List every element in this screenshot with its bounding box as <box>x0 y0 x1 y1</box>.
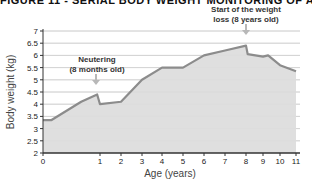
y-tick-label: 5.5 <box>27 64 39 73</box>
y-axis-label: Body weight (kg) <box>5 55 16 129</box>
x-tick-label: 2 <box>119 157 124 166</box>
y-tick-label: 7 <box>34 27 39 36</box>
arrow-down-icon <box>242 30 250 35</box>
x-tick-label: 4 <box>160 157 165 166</box>
x-tick-label: 5 <box>181 157 186 166</box>
arrow-down-icon <box>92 80 100 85</box>
x-axis-label: Age (years) <box>144 168 196 179</box>
y-tick-label: 4.5 <box>27 88 39 97</box>
y-tick-label: 2 <box>34 149 39 158</box>
y-tick-label: 5 <box>34 76 39 85</box>
x-tick-label: 1 <box>98 157 103 166</box>
x-tick-label: 9 <box>261 157 266 166</box>
annotation-label: Neutering <box>78 55 115 64</box>
annotation-label: loss (8 years old) <box>213 15 279 24</box>
y-tick-label: 3.5 <box>27 112 39 121</box>
x-tick-label: 3 <box>140 157 145 166</box>
x-tick-label: 8 <box>244 157 249 166</box>
y-tick-label: 4 <box>34 100 39 109</box>
annotation-label: (8 months old) <box>69 65 124 74</box>
y-tick-label: 3 <box>34 125 39 134</box>
y-tick-label: 6 <box>34 51 39 60</box>
x-tick-label: 10 <box>276 157 285 166</box>
body-weight-chart: 22.533.544.555.566.5701234567891011Age (… <box>0 0 312 184</box>
x-tick-label: 0 <box>41 157 46 166</box>
x-tick-label: 11 <box>292 157 301 166</box>
y-tick-label: 6.5 <box>27 39 39 48</box>
x-tick-label: 6 <box>202 157 207 166</box>
y-tick-label: 2.5 <box>27 137 39 146</box>
x-tick-label: 7 <box>223 157 228 166</box>
annotation-label: Start of the weight <box>211 5 281 14</box>
